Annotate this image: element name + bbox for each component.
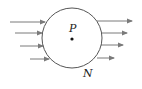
surface-label-n: N (82, 67, 93, 80)
incoming-field-arrows (10, 22, 49, 59)
flux-diagram: P N (0, 0, 142, 89)
center-point-dot (70, 37, 73, 40)
point-label-p: P (68, 22, 77, 35)
